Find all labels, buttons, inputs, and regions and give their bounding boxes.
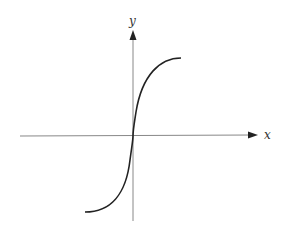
y-axis-label: y xyxy=(128,14,136,28)
y-axis-arrow-icon xyxy=(130,30,137,40)
x-axis-arrow-icon xyxy=(248,132,258,139)
x-axis xyxy=(20,135,252,136)
graph: x y xyxy=(0,0,282,230)
x-axis-label: x xyxy=(264,128,271,142)
